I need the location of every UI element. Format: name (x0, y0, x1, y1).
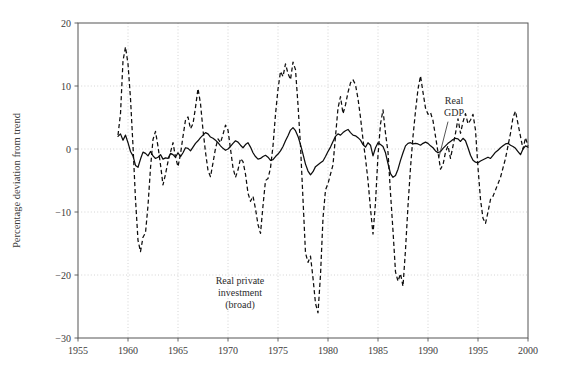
y-axis-tick-label: −10 (55, 207, 71, 218)
y-axis-tick-label: 20 (61, 18, 71, 29)
x-axis-tick-label: 2000 (518, 345, 538, 356)
y-axis-tick-label: −20 (55, 270, 71, 281)
x-axis-tick-label: 1995 (468, 345, 488, 356)
x-axis-tick-label: 1960 (118, 345, 138, 356)
x-axis-tick-label: 1980 (318, 345, 338, 356)
annotation-real-gdp: RealGDP (444, 95, 464, 118)
business-cycle-line-chart: 1955196019651970197519801985199019952000… (0, 0, 562, 379)
y-axis-title: Percentage deviation from trend (11, 112, 22, 248)
x-axis-tick-label: 1990 (418, 345, 438, 356)
x-axis-tick-label: 1970 (218, 345, 238, 356)
x-axis-tick-label: 1975 (268, 345, 288, 356)
x-axis-tick-label: 1955 (68, 345, 88, 356)
x-axis-tick-label: 1985 (368, 345, 388, 356)
y-axis-tick-label: 0 (66, 144, 71, 155)
y-axis-tick-label: 10 (61, 81, 71, 92)
y-axis-tick-label: −30 (55, 333, 71, 344)
x-axis-tick-label: 1965 (168, 345, 188, 356)
chart-figure: 1955196019651970197519801985199019952000… (0, 0, 562, 379)
